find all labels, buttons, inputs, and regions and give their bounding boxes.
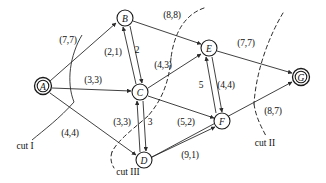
- node-G-label: G: [298, 73, 305, 83]
- edge-label-D-C: (3,3): [113, 117, 131, 127]
- edge-label-C-D: 3: [148, 117, 153, 127]
- edge-label-F-E: 5: [199, 80, 204, 90]
- edge-label-B-E: (8,8): [163, 10, 181, 20]
- edge-label-B-C: 2: [135, 45, 140, 55]
- edge-label-A-D: (4,4): [61, 128, 79, 138]
- node-C[interactable]: C: [132, 84, 148, 100]
- node-F[interactable]: F: [214, 113, 230, 129]
- edge-label-C-B: (2,1): [104, 47, 122, 57]
- edge-label-D-G: (8,7): [264, 106, 282, 116]
- flow-network-diagram: A B C D E: [0, 0, 326, 183]
- node-D-label: D: [140, 156, 148, 166]
- cut-2-label: cut II: [255, 138, 275, 148]
- edge-label-D-F: (9,1): [181, 150, 199, 160]
- node-A[interactable]: A: [35, 78, 52, 95]
- node-D[interactable]: D: [136, 152, 152, 168]
- edge-label-C-F: (5,2): [177, 117, 195, 127]
- node-G[interactable]: G: [293, 69, 310, 86]
- edge-F-E: [206, 57, 216, 113]
- cut-3-leader: [111, 152, 114, 168]
- cut-1-curve: [70, 35, 82, 102]
- edge-label-A-C: (3,3): [84, 75, 102, 85]
- edge-label-C-E: (4,3): [154, 60, 172, 70]
- edge-C-B: [123, 27, 136, 84]
- edge-A-C: [52, 88, 131, 91]
- edge-B-E: [133, 21, 201, 44]
- node-E[interactable]: E: [201, 40, 217, 56]
- cut-2-curve: [254, 13, 283, 104]
- edge-C-D: [143, 101, 146, 151]
- cut-1-label: cut I: [16, 141, 33, 151]
- cut-group: [32, 8, 283, 168]
- node-C-label: C: [137, 88, 144, 98]
- node-B-label: B: [122, 14, 128, 24]
- edge-label-E-G: (7,7): [237, 38, 255, 48]
- node-E-label: E: [205, 44, 212, 54]
- node-A-label: A: [39, 82, 46, 92]
- edge-D-C: [137, 101, 140, 152]
- edge-C-F: [148, 96, 214, 118]
- edge-label-A-B: (7,7): [59, 35, 77, 45]
- edge-label-E-F: (4,4): [217, 80, 235, 90]
- node-B[interactable]: B: [117, 10, 133, 26]
- node-F-label: F: [218, 117, 225, 127]
- edge-E-G: [217, 51, 292, 73]
- graph-canvas: A B C D E: [0, 0, 326, 183]
- cut-3-label: cut III: [116, 167, 139, 177]
